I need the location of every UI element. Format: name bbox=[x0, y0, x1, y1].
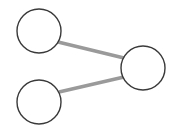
diagram-canvas bbox=[0, 0, 173, 137]
edges-layer bbox=[58, 42, 124, 92]
bottom-left-node[interactable] bbox=[17, 80, 61, 124]
nodes-layer bbox=[17, 9, 165, 124]
top-left-node[interactable] bbox=[17, 9, 61, 53]
right-node[interactable] bbox=[121, 46, 165, 90]
edge-bottom-left-to-right[interactable] bbox=[59, 77, 124, 92]
graph-svg bbox=[0, 0, 173, 137]
edge-top-left-to-right[interactable] bbox=[58, 42, 124, 58]
